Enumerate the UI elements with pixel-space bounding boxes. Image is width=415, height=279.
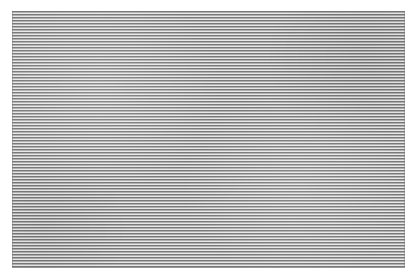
- swatch-edge-outline: [12, 11, 405, 268]
- texture-mottling-overlay: [12, 11, 405, 268]
- horizontal-stripe-pattern: [12, 11, 405, 268]
- image-canvas: [0, 0, 415, 279]
